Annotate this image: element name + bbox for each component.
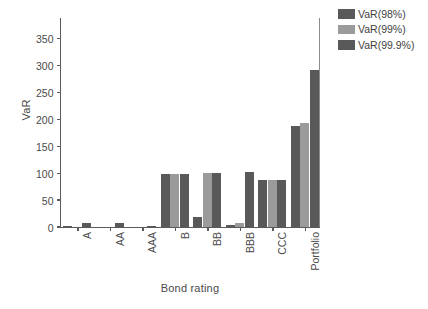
legend-label: VaR(99%)	[358, 24, 406, 35]
y-axis-tick-mark	[57, 199, 62, 200]
bar-group	[193, 173, 221, 227]
x-axis-tick-label: CCC	[276, 232, 288, 255]
bar-group	[161, 174, 189, 227]
x-axis-tick-mark	[272, 227, 273, 231]
y-axis-tick-mark	[57, 226, 62, 227]
x-axis-tick-label: A	[81, 232, 93, 239]
y-axis-title: VaR	[20, 90, 32, 130]
x-axis-tick-mark	[110, 227, 111, 231]
legend-label: VaR(99.9%)	[358, 40, 414, 51]
y-axis-tick-mark	[57, 92, 62, 93]
bar	[212, 173, 221, 227]
bar	[180, 174, 189, 227]
y-axis-tick-mark	[57, 173, 62, 174]
bar	[170, 174, 179, 227]
bar	[245, 172, 254, 227]
legend-swatch	[338, 25, 355, 35]
plot-area: 050100150200250300350 AAAAAABBBBBBCCCPor…	[60, 18, 320, 228]
bar	[300, 123, 309, 227]
y-axis-tick-label: 50	[42, 195, 57, 206]
bar	[147, 226, 156, 227]
bar	[291, 126, 300, 227]
legend-item[interactable]: VaR(98%)	[338, 8, 414, 20]
bar	[203, 173, 212, 227]
y-axis-tick-label: 0	[48, 222, 57, 233]
x-axis-tick-mark	[305, 227, 306, 231]
bar	[82, 223, 91, 227]
x-axis-tick-mark	[142, 227, 143, 231]
legend-swatch	[338, 9, 355, 19]
bar	[193, 217, 202, 227]
bar	[258, 180, 267, 227]
bar	[310, 70, 319, 227]
bar-group	[291, 70, 319, 227]
bar-group	[226, 172, 254, 227]
x-axis-tick-mark	[207, 227, 208, 231]
legend-item[interactable]: VaR(99.9%)	[338, 39, 414, 51]
y-axis-tick-mark	[57, 146, 62, 147]
y-axis-tick-label: 250	[36, 88, 57, 99]
legend-label: VaR(98%)	[358, 9, 406, 20]
x-axis-tick-label: AA	[114, 232, 126, 246]
y-axis-tick-mark	[57, 65, 62, 66]
y-axis-tick-mark	[57, 119, 62, 120]
bar	[115, 223, 124, 227]
x-axis-tick-label: AAA	[146, 232, 158, 253]
x-axis-tick-mark	[175, 227, 176, 231]
y-axis-tick-label: 300	[36, 61, 57, 72]
bar	[268, 180, 277, 227]
x-axis-tick-label: Portfolio	[309, 232, 321, 271]
y-axis-tick-mark	[57, 38, 62, 39]
x-axis-tick-label: BB	[211, 232, 223, 246]
x-axis-tick-mark	[77, 227, 78, 231]
bar	[226, 225, 235, 227]
x-axis-tick-label: B	[179, 232, 191, 239]
y-axis-tick-label: 350	[36, 34, 57, 45]
y-axis-tick-label: 200	[36, 115, 57, 126]
chart-legend: VaR(98%)VaR(99%)VaR(99.9%)	[338, 8, 414, 51]
legend-item[interactable]: VaR(99%)	[338, 24, 414, 36]
legend-swatch	[338, 40, 355, 50]
y-axis-tick-label: 150	[36, 141, 57, 152]
y-axis-tick-label: 100	[36, 168, 57, 179]
bar	[277, 180, 286, 227]
x-axis-tick-label: BBB	[244, 232, 256, 253]
bar	[63, 226, 72, 227]
x-axis-title: Bond rating	[60, 282, 320, 294]
bar-group	[258, 180, 286, 227]
bar-chart-figure: VaR 050100150200250300350 AAAAAABBBBBBCC…	[0, 0, 428, 309]
bar	[161, 174, 170, 227]
x-axis-tick-mark	[240, 227, 241, 231]
